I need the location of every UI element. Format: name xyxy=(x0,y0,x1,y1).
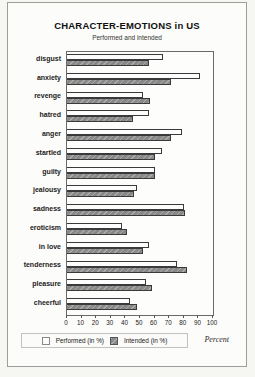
bar-intended-pleasure xyxy=(67,285,152,291)
bar-row-in-love xyxy=(67,240,213,259)
tick-30 xyxy=(110,315,111,318)
x-axis-tick-labels: 0102030405060708090100 xyxy=(66,319,212,327)
category-label-jealousy: jealousy xyxy=(8,180,63,199)
bar-intended-eroticism xyxy=(67,229,127,235)
category-label-disgust: disgust xyxy=(8,49,63,68)
bar-intended-sadness xyxy=(67,210,185,216)
y-axis-labels: disgustanxietyrevengehatredangerstartled… xyxy=(8,49,63,312)
bar-row-tenderness xyxy=(67,259,213,278)
legend-label-performed: Performed (in %) xyxy=(56,337,104,344)
bar-row-pleasure xyxy=(67,277,213,296)
tick-80 xyxy=(183,315,184,318)
category-label-sadness: sadness xyxy=(8,199,63,218)
tick-label-100: 100 xyxy=(202,319,222,326)
bar-row-cheerful xyxy=(67,296,213,315)
plot-area xyxy=(66,51,214,316)
tick-20 xyxy=(95,315,96,318)
tick-50 xyxy=(139,315,140,318)
bar-intended-startled xyxy=(67,154,155,160)
category-label-guilty: guilty xyxy=(8,162,63,181)
category-label-pleasure: pleasure xyxy=(8,274,63,293)
bar-row-eroticism xyxy=(67,221,213,240)
tick-100 xyxy=(212,315,213,318)
bar-row-hatred xyxy=(67,108,213,127)
bar-intended-cheerful xyxy=(67,304,137,310)
bar-intended-jealousy xyxy=(67,191,134,197)
bar-intended-in-love xyxy=(67,248,143,254)
bar-row-jealousy xyxy=(67,183,213,202)
figure-page: { "chart_data": { "type": "bar", "orient… xyxy=(0,0,255,377)
bar-row-startled xyxy=(67,146,213,165)
category-label-in-love: in love xyxy=(8,237,63,256)
x-axis-ticks xyxy=(66,315,212,318)
category-label-cheerful: cheerful xyxy=(8,293,63,312)
category-label-startled: startled xyxy=(8,143,63,162)
category-label-hatred: hatred xyxy=(8,105,63,124)
tick-40 xyxy=(124,315,125,318)
bar-row-anxiety xyxy=(67,71,213,90)
bar-intended-guilty xyxy=(67,173,155,179)
bar-row-guilty xyxy=(67,165,213,184)
category-label-tenderness: tenderness xyxy=(8,256,63,275)
bar-intended-hatred xyxy=(67,116,133,122)
legend-label-intended: Intended (in %) xyxy=(124,337,167,344)
tick-70 xyxy=(168,315,169,318)
tick-60 xyxy=(154,315,155,318)
bar-intended-anger xyxy=(67,135,171,141)
category-label-anger: anger xyxy=(8,124,63,143)
category-label-eroticism: eroticism xyxy=(8,218,63,237)
legend-swatch-performed xyxy=(42,337,50,345)
bar-intended-disgust xyxy=(67,60,149,66)
legend: Performed (in %) Intended (in %) xyxy=(21,333,188,348)
bar-row-anger xyxy=(67,127,213,146)
bar-row-revenge xyxy=(67,90,213,109)
bar-row-disgust xyxy=(67,52,213,71)
legend-swatch-intended xyxy=(110,337,118,345)
bar-row-sadness xyxy=(67,202,213,221)
bar-intended-revenge xyxy=(67,98,150,104)
tick-90 xyxy=(197,315,198,318)
bar-intended-anxiety xyxy=(67,79,171,85)
chart-subtitle: Performed and intended xyxy=(8,34,246,41)
category-label-anxiety: anxiety xyxy=(8,68,63,87)
chart-title: CHARACTER-EMOTIONS in US xyxy=(8,20,246,31)
tick-0 xyxy=(66,315,67,318)
axis-unit-label: Percent xyxy=(204,335,229,344)
category-label-revenge: revenge xyxy=(8,87,63,106)
figure-card: CHARACTER-EMOTIONS in US Performed and i… xyxy=(7,2,247,367)
bar-intended-tenderness xyxy=(67,267,187,273)
tick-10 xyxy=(81,315,82,318)
